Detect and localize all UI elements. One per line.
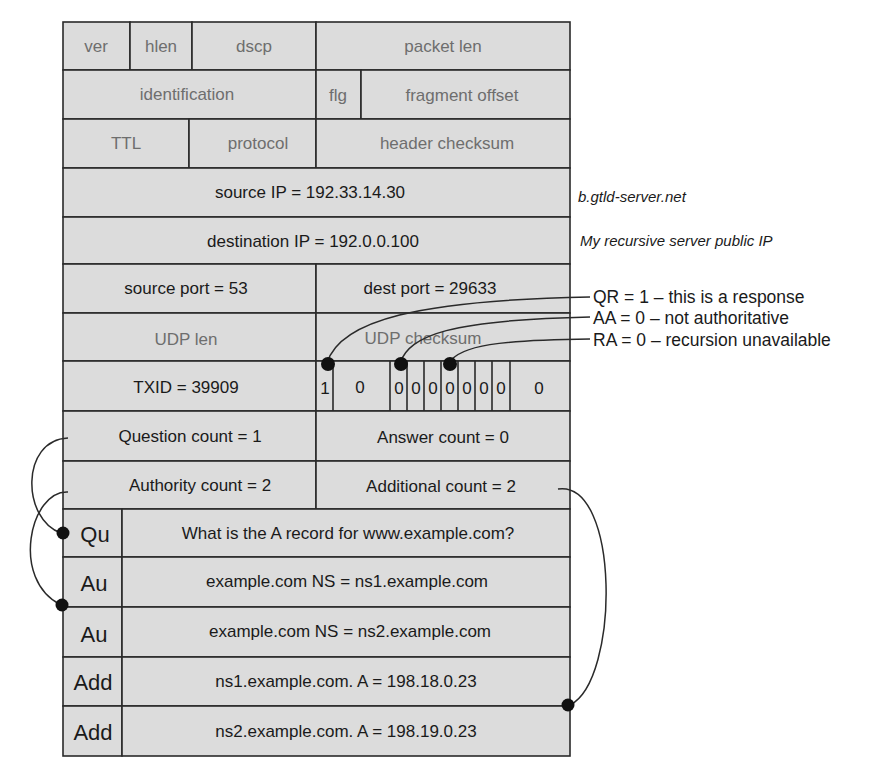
dns-records: Qu What is the A record for www.example.… <box>63 509 570 756</box>
additional-count-label: Additional count = 2 <box>366 477 516 496</box>
record-content: example.com NS = ns2.example.com <box>209 622 491 641</box>
dest-port-label: dest port = 29633 <box>364 279 497 298</box>
udp-header: source port = 53 dest port = 29633 UDP l… <box>63 264 570 361</box>
add-dot-icon <box>562 699 575 712</box>
record-row: Add ns1.example.com. A = 198.18.0.23 <box>63 657 570 706</box>
flag-bit-ra: 0 <box>445 379 454 398</box>
record-row: Add ns2.example.com. A = 198.19.0.23 <box>63 706 570 756</box>
record-row: Au example.com NS = ns2.example.com <box>63 607 570 657</box>
record-content: ns1.example.com. A = 198.18.0.23 <box>215 672 476 691</box>
flag-bit-rd: 0 <box>428 379 437 398</box>
source-ip-note: b.gtld-server.net <box>578 188 687 205</box>
aa-dot-icon <box>394 357 408 371</box>
flag-bit-qr: 1 <box>320 379 329 398</box>
source-port-label: source port = 53 <box>124 279 247 298</box>
ver-label: ver <box>84 37 108 56</box>
flag-bit-z: 0 <box>462 379 471 398</box>
dscp-label: dscp <box>236 37 272 56</box>
flags-field <box>316 361 570 411</box>
header-checksum-label: header checksum <box>380 134 514 153</box>
flag-bit-opcode: 0 <box>355 378 364 397</box>
flag-bit-aa: 0 <box>394 379 403 398</box>
answer-count-label: Answer count = 0 <box>377 428 509 447</box>
record-row: Au example.com NS = ns1.example.com <box>63 557 570 607</box>
authority-count-label: Authority count = 2 <box>129 476 271 495</box>
qu-dot-icon <box>57 527 70 540</box>
udp-checksum-label: UDP checksum <box>365 329 482 348</box>
txid-label: TXID = 39909 <box>133 378 238 397</box>
record-section-label: Add <box>73 720 112 745</box>
qr-dot-icon <box>321 357 335 371</box>
flag-bit-ad: 0 <box>479 379 488 398</box>
ip-header: ver hlen dscp packet len identification … <box>63 22 570 264</box>
destination-ip-note: My recursive server public IP <box>580 232 773 249</box>
ra-dot-icon <box>443 357 457 371</box>
au-dot-icon <box>56 599 69 612</box>
identification-label: identification <box>140 85 235 104</box>
record-content: What is the A record for www.example.com… <box>182 524 515 543</box>
source-ip-label: source IP = 192.33.14.30 <box>215 183 405 202</box>
destination-ip-label: destination IP = 192.0.0.100 <box>207 232 419 251</box>
record-content: example.com NS = ns1.example.com <box>206 572 488 591</box>
record-row: Qu What is the A record for www.example.… <box>63 509 570 557</box>
ttl-label: TTL <box>111 134 141 153</box>
flag-bit-rcode: 0 <box>534 379 543 398</box>
hlen-label: hlen <box>145 37 177 56</box>
udp-len-label: UDP len <box>155 330 218 349</box>
packet-len-label: packet len <box>404 37 482 56</box>
dns-header: TXID = 39909 1 0 0 0 0 0 0 0 0 0 <box>63 361 570 509</box>
protocol-label: protocol <box>228 134 288 153</box>
record-section-label: Au <box>81 622 108 647</box>
aa-annotation: AA = 0 – not authoritative <box>593 308 789 328</box>
dns-response-packet-diagram: ver hlen dscp packet len identification … <box>0 0 892 782</box>
flg-label: flg <box>329 86 347 105</box>
record-section-label: Qu <box>80 522 109 547</box>
qr-annotation: QR = 1 – this is a response <box>593 287 805 307</box>
record-content: ns2.example.com. A = 198.19.0.23 <box>215 722 476 741</box>
record-section-label: Add <box>73 670 112 695</box>
question-count-label: Question count = 1 <box>118 427 261 446</box>
flag-bit-tc: 0 <box>411 379 420 398</box>
fragment-offset-label: fragment offset <box>405 86 518 105</box>
ra-annotation: RA = 0 – recursion unavailable <box>593 330 831 350</box>
flag-bit-cd: 0 <box>496 379 505 398</box>
record-section-label: Au <box>81 571 108 596</box>
